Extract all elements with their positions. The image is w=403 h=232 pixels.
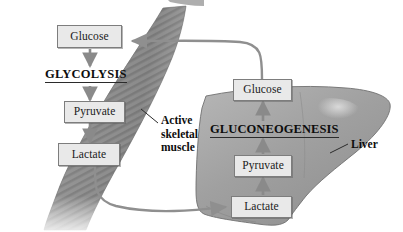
muscle-glucose-box[interactable]: Glucose xyxy=(57,25,122,48)
muscle-lactate-box[interactable]: Lactate xyxy=(58,143,120,166)
liver-lactate-label: Lactate xyxy=(244,201,279,213)
liver-lactate-box[interactable]: Lactate xyxy=(231,196,292,218)
muscle-glucose-label: Glucose xyxy=(70,31,108,43)
muscle-callout-line-3: muscle xyxy=(161,141,198,155)
active-skeletal-muscle-callout: Active skeletal muscle xyxy=(161,114,198,155)
muscle-callout-line-2: skeletal xyxy=(161,128,198,142)
muscle-callout-line-1: Active xyxy=(161,114,198,128)
liver-glucose-box[interactable]: Glucose xyxy=(233,79,292,101)
liver-pyruvate-label: Pyruvate xyxy=(242,160,284,172)
gluconeogenesis-label: GLUCONEOGENESIS xyxy=(210,123,339,138)
liver-pyruvate-box[interactable]: Pyruvate xyxy=(234,155,292,177)
cori-cycle-diagram: Glucose Pyruvate Lactate GLYCOLYSIS Acti… xyxy=(0,0,403,232)
liver-glucose-label: Glucose xyxy=(243,84,281,96)
liver-callout: Liver xyxy=(351,138,378,152)
muscle-pyruvate-box[interactable]: Pyruvate xyxy=(64,101,125,123)
muscle-pyruvate-label: Pyruvate xyxy=(74,106,116,118)
muscle-lactate-label: Lactate xyxy=(72,149,107,161)
glycolysis-label: GLYCOLYSIS xyxy=(45,68,127,83)
liver-shape xyxy=(196,86,390,225)
